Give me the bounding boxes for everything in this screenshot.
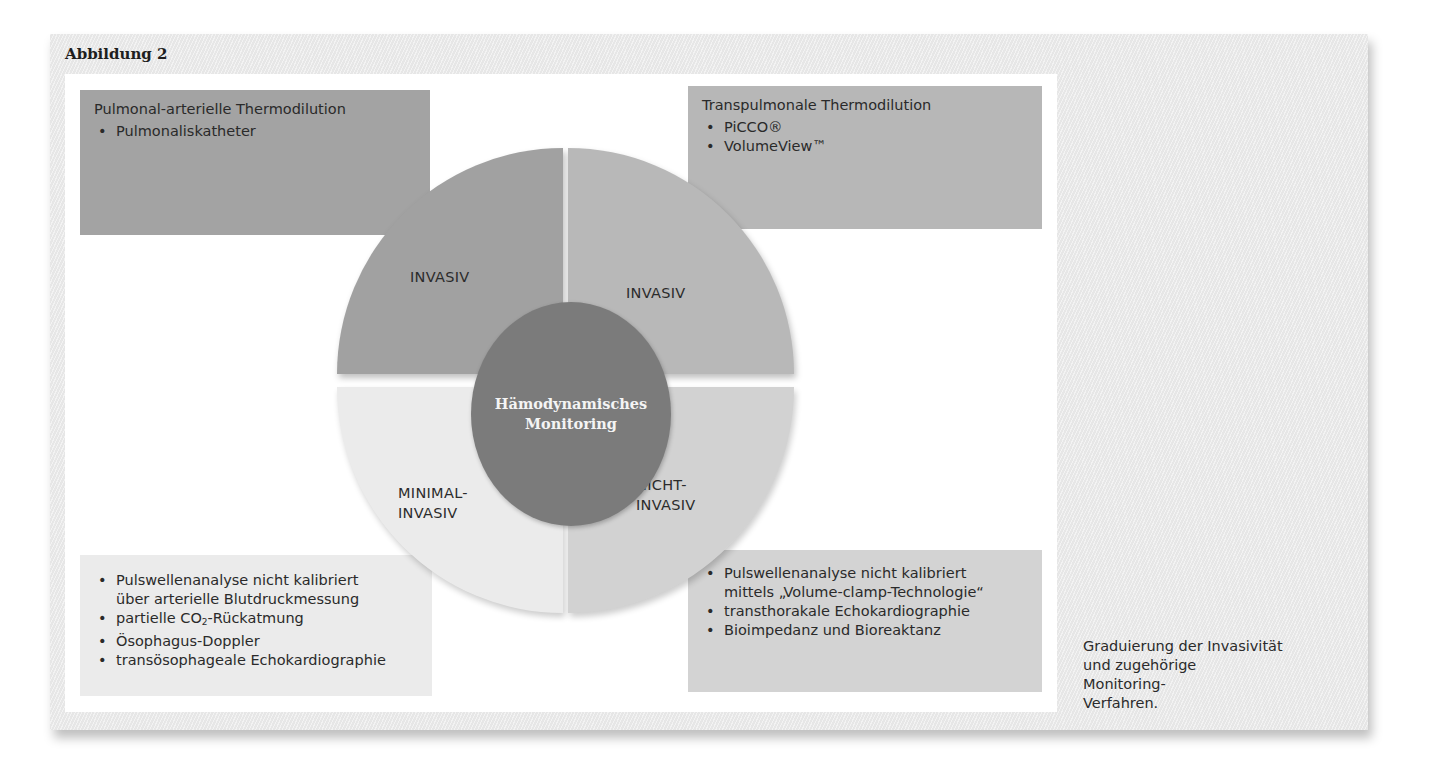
caption-line: Graduierung der Invasivität — [1083, 638, 1283, 654]
diagram-panel: Pulmonal-arterielle Thermodilution Pulmo… — [65, 74, 1057, 712]
center-circle: Hämodynamisches Monitoring — [471, 302, 671, 526]
box-nicht-invasiv-methods: Pulswellenanalyse nicht kalibriert mitte… — [688, 550, 1042, 692]
box-list: Pulswellenanalyse nicht kalibriert über … — [94, 571, 418, 670]
list-item-line: Pulswellenanalyse nicht kalibriert — [116, 572, 358, 588]
box-list: Pulmonaliskatheter — [94, 122, 416, 141]
figure-caption: Graduierung der Invasivität und zugehöri… — [1083, 637, 1283, 713]
list-item: Pulmonaliskatheter — [94, 122, 416, 141]
caption-line: und zugehörige Monitoring- — [1083, 657, 1196, 692]
box-list: Pulswellenanalyse nicht kalibriert mitte… — [702, 564, 1028, 640]
center-label-line: Monitoring — [525, 414, 617, 434]
list-item: VolumeView™ — [702, 137, 1028, 156]
list-item-text: partielle CO — [116, 610, 202, 626]
list-item-line: über arterielle Blutdruckmessung — [116, 591, 359, 607]
figure-title: Abbildung 2 — [65, 45, 167, 63]
list-item-line: Pulswellenanalyse nicht kalibriert — [724, 565, 966, 581]
quadrant-label: INVASIV — [626, 283, 686, 303]
figure-card: Abbildung 2 Pulmonal-arterielle Thermodi… — [50, 34, 1368, 730]
list-item: PiCCO® — [702, 118, 1028, 137]
list-item: transthorakale Echokardiographie — [702, 602, 1028, 621]
list-item-line: mittels „Volume-clamp-Technologie“ — [724, 584, 984, 600]
list-item: partielle CO2-Rückatmung — [94, 609, 418, 632]
box-pulmonal-arterielle-thermodilution: Pulmonal-arterielle Thermodilution Pulmo… — [80, 90, 430, 235]
box-heading: Transpulmonale Thermodilution — [702, 96, 1028, 115]
quadrant-label-line: MINIMAL- — [398, 485, 468, 501]
quadrant-label: INVASIV — [410, 267, 470, 287]
box-list: PiCCO® VolumeView™ — [702, 118, 1028, 156]
box-heading: Pulmonal-arterielle Thermodilution — [94, 100, 416, 119]
center-label-line: Hämodynamisches — [495, 394, 647, 414]
list-item: Pulswellenanalyse nicht kalibriert über … — [94, 571, 418, 609]
list-item: Bioimpedanz und Bioreaktanz — [702, 621, 1028, 640]
quadrant-label-line: INVASIV — [398, 505, 458, 521]
quadrant-label: MINIMAL- INVASIV — [398, 483, 468, 523]
quadrant-label-line: INVASIV — [636, 497, 696, 513]
list-item: transösophageale Echokardiographie — [94, 651, 418, 670]
caption-line: Verfahren. — [1083, 695, 1158, 711]
box-minimal-invasiv-methods: Pulswellenanalyse nicht kalibriert über … — [80, 555, 432, 696]
list-item: Pulswellenanalyse nicht kalibriert mitte… — [702, 564, 1028, 602]
list-item: Ösophagus-Doppler — [94, 632, 418, 651]
box-transpulmonale-thermodilution: Transpulmonale Thermodilution PiCCO® Vol… — [688, 86, 1042, 229]
list-item-text: -Rückatmung — [208, 610, 304, 626]
